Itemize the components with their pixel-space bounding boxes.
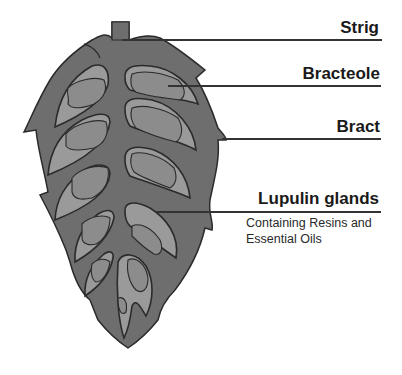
strig-leader-line — [122, 39, 382, 41]
label-lupulin-glands: Lupulin glands — [258, 189, 379, 209]
label-bracteole: Bracteole — [303, 64, 380, 84]
lupulin-leader-line — [156, 211, 381, 213]
label-lupulin-subtext-2: Essential Oils — [246, 231, 322, 247]
bract-leader-line — [222, 138, 381, 140]
label-bract: Bract — [337, 117, 380, 137]
bracteole-leader-line — [168, 85, 381, 87]
strig-stem — [112, 22, 129, 40]
hop-cone-illustration — [0, 0, 402, 375]
label-strig: Strig — [340, 18, 379, 38]
label-lupulin-subtext-1: Containing Resins and — [246, 215, 372, 231]
